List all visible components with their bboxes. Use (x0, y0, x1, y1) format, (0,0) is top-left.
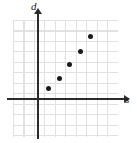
x-axis-line (7, 98, 125, 100)
data-point (78, 49, 83, 54)
data-point (57, 76, 62, 81)
scatter-plot-figure: d s (0, 0, 137, 143)
data-point (67, 62, 72, 67)
data-point (88, 34, 93, 39)
x-axis-label: s (125, 94, 129, 105)
plot-grid (13, 20, 118, 137)
y-axis-label: d (31, 1, 37, 12)
data-point (46, 86, 51, 91)
y-axis-line (37, 14, 39, 139)
